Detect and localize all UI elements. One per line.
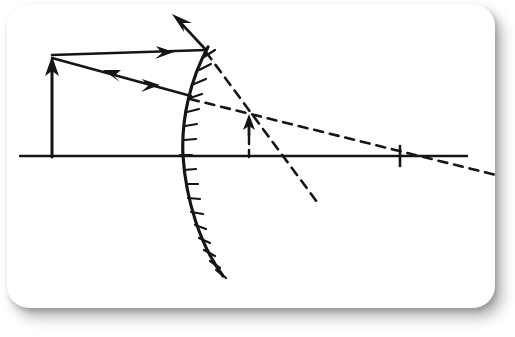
virtual-image-arrow [243,114,255,157]
incident-ray-oblique [52,58,191,96]
virtual-extension-through-focus [190,99,500,176]
ray-diagram-svg [0,0,515,337]
screenshot-stage [0,0,515,337]
reflected-ray-upward [172,14,206,50]
object-arrow [45,56,59,157]
virtual-extension-from-top [206,52,320,206]
incident-ray-parallel [52,46,206,59]
